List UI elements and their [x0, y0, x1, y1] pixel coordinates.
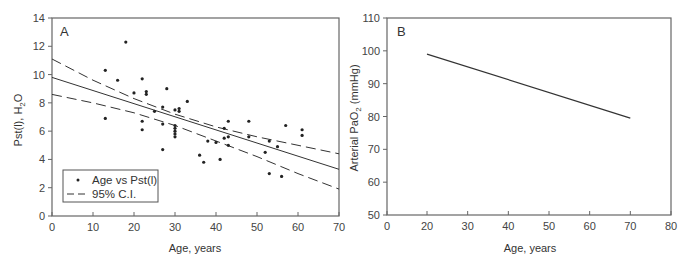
y-tick-label: 14 — [33, 12, 45, 24]
data-point — [173, 132, 176, 135]
data-point — [145, 93, 148, 96]
y-tick-label: 6 — [39, 125, 45, 137]
scatter-points-a — [104, 40, 304, 178]
y-tick-label: 80 — [368, 111, 380, 123]
y-axis-a: 02468101214 — [33, 12, 52, 222]
x-tick-label: 40 — [210, 221, 222, 233]
legend-label-ci: 95% C.I. — [92, 188, 136, 200]
data-point — [161, 122, 164, 125]
data-point — [198, 154, 201, 157]
data-point — [223, 137, 226, 140]
y-tick-label: 4 — [39, 153, 45, 165]
data-point — [173, 130, 176, 133]
y-tick-label: 8 — [39, 97, 45, 109]
x-tick-label: 20 — [128, 221, 140, 233]
data-point — [132, 91, 135, 94]
data-point — [104, 69, 107, 72]
x-tick-label: 10 — [87, 221, 99, 233]
x-axis-title-a: Age, years — [169, 242, 222, 254]
data-point — [223, 127, 226, 130]
x-tick-label: 0 — [49, 221, 55, 233]
y-tick-label: 50 — [368, 209, 380, 221]
data-point — [161, 106, 164, 109]
legend-label-scatter: Age vs Pst(l) — [92, 174, 157, 186]
y-tick-label: 10 — [33, 69, 45, 81]
data-point — [178, 107, 181, 110]
chart-panel-a: 010203040506070 02468101214 A Age, years… — [12, 12, 345, 254]
y-tick-label: 70 — [368, 143, 380, 155]
ci-line — [52, 59, 339, 154]
plot-frame-b — [387, 18, 671, 215]
y-tick-label: 12 — [33, 40, 45, 52]
data-point — [301, 128, 304, 131]
x-tick-label: 80 — [665, 220, 677, 232]
legend-a: Age vs Pst(l) 95% C.I. — [63, 170, 158, 202]
panel-label-b: B — [397, 24, 406, 39]
y-tick-label: 0 — [39, 210, 45, 222]
data-point — [173, 108, 176, 111]
x-tick-label: 50 — [543, 220, 555, 232]
data-point — [227, 144, 230, 147]
pao2-line — [427, 54, 630, 118]
chart-panel-b: 020304050607080 5060708090100110 B Age, … — [348, 12, 677, 254]
regression-line — [52, 77, 339, 169]
data-point — [173, 124, 176, 127]
y-tick-label: 110 — [362, 12, 380, 24]
data-point — [280, 175, 283, 178]
data-point — [161, 148, 164, 151]
data-point — [141, 120, 144, 123]
data-point — [173, 135, 176, 138]
x-axis-a: 010203040506070 — [49, 212, 345, 233]
data-point — [145, 90, 148, 93]
y-axis-title-b: Arterial PaO2 (mmHg) — [348, 64, 363, 171]
data-point — [178, 110, 181, 113]
data-point — [264, 151, 267, 154]
x-tick-label: 30 — [169, 221, 181, 233]
data-point — [301, 134, 304, 137]
y-tick-label: 2 — [39, 182, 45, 194]
data-line-b — [427, 54, 630, 118]
x-tick-label: 40 — [502, 220, 514, 232]
data-point — [124, 40, 127, 43]
data-point — [153, 110, 156, 113]
y-tick-label: 100 — [362, 45, 380, 57]
data-point — [219, 158, 222, 161]
legend-dot-icon — [77, 179, 80, 182]
x-tick-label: 60 — [584, 220, 596, 232]
panel-label-a: A — [60, 24, 69, 39]
data-point — [141, 77, 144, 80]
x-tick-label: 60 — [292, 221, 304, 233]
data-point — [165, 87, 168, 90]
data-point — [227, 135, 230, 138]
x-axis-b: 020304050607080 — [384, 211, 677, 232]
y-tick-label: 90 — [368, 78, 380, 90]
x-tick-label: 30 — [462, 220, 474, 232]
data-point — [276, 145, 279, 148]
data-point — [284, 124, 287, 127]
data-point — [227, 120, 230, 123]
figure: 010203040506070 02468101214 A Age, years… — [0, 0, 688, 259]
data-point — [268, 172, 271, 175]
x-tick-label: 20 — [421, 220, 433, 232]
data-point — [206, 139, 209, 142]
data-point — [247, 120, 250, 123]
data-point — [116, 79, 119, 82]
x-tick-label: 70 — [624, 220, 636, 232]
x-tick-label: 0 — [384, 220, 390, 232]
x-axis-title-b: Age, years — [504, 242, 557, 254]
y-tick-label: 60 — [368, 176, 380, 188]
data-point — [141, 128, 144, 131]
y-axis-title-a: Pst(l), H2O — [12, 93, 27, 146]
data-point — [173, 127, 176, 130]
y-axis-b: 5060708090100110 — [362, 12, 387, 221]
data-point — [186, 100, 189, 103]
x-tick-label: 50 — [251, 221, 263, 233]
data-point — [247, 135, 250, 138]
data-point — [214, 141, 217, 144]
data-point — [268, 139, 271, 142]
x-tick-label: 70 — [333, 221, 345, 233]
data-point — [104, 117, 107, 120]
data-point — [202, 161, 205, 164]
